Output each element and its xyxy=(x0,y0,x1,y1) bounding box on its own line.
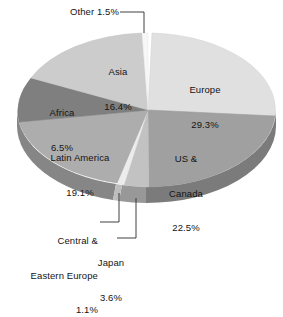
slice-europe xyxy=(148,33,275,116)
leader-line-other xyxy=(120,12,144,33)
side-wall-japan xyxy=(119,185,146,203)
slice-label-other-text: Other 1.5% xyxy=(70,6,119,17)
slice-label-japan-name: Japan xyxy=(83,257,139,269)
leader-line-japan xyxy=(117,198,136,238)
slice-us-canada xyxy=(148,110,275,187)
slice-label-japan: Japan 3.6% xyxy=(83,234,139,317)
pie-top-face xyxy=(18,33,276,187)
slice-label-other: Other 1.5% xyxy=(35,6,119,18)
slice-label-japan-value: 3.6% xyxy=(83,292,139,304)
